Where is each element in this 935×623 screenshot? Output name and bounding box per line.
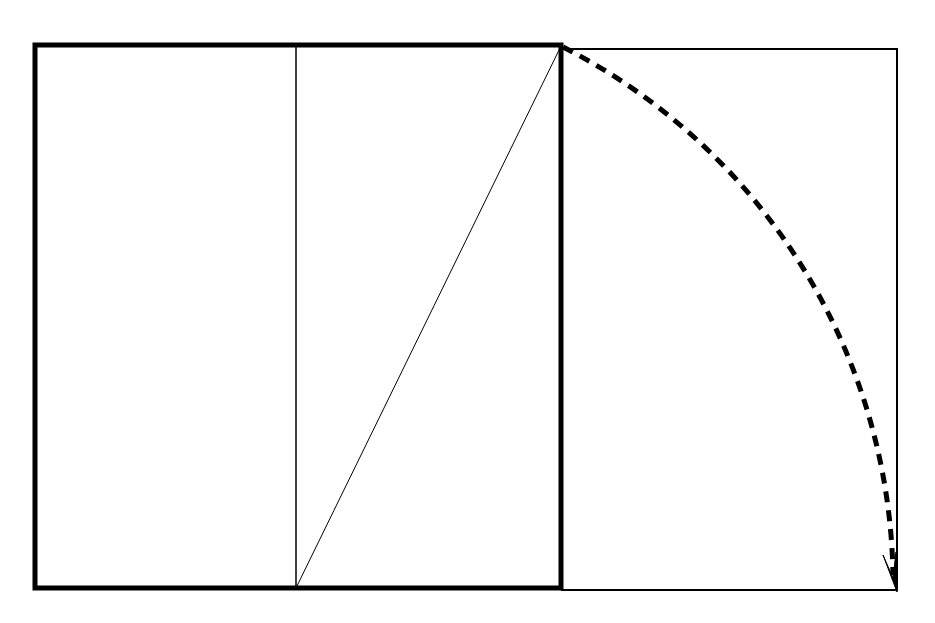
bold-square — [35, 45, 561, 588]
half-rectangle-diagonal — [296, 46, 561, 588]
extension-rectangle — [561, 49, 897, 590]
swing-arc-dashed — [563, 47, 893, 575]
golden-rectangle-diagram — [0, 0, 935, 623]
